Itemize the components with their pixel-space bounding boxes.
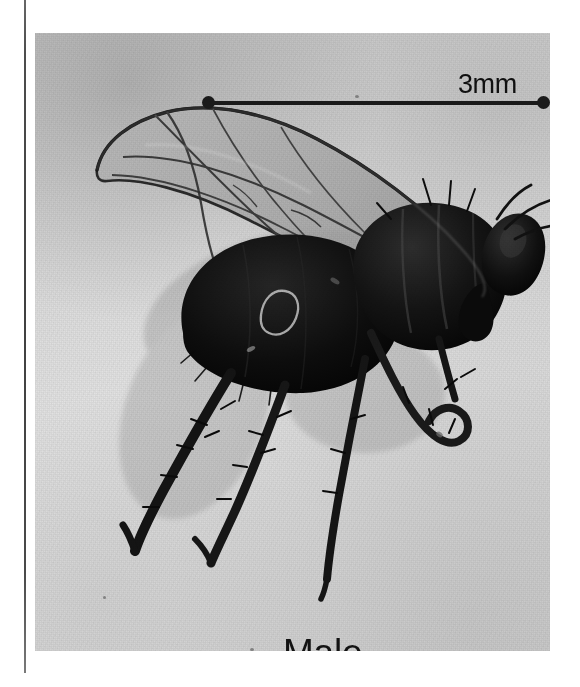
page-gutter-rule: [24, 0, 26, 673]
film-grain-overlay: [35, 33, 550, 651]
scale-bar-label: 3mm: [458, 69, 517, 100]
scale-bar-line: [209, 101, 543, 105]
dust-speck: [103, 596, 106, 599]
dust-speck: [250, 648, 254, 651]
dust-speck: [355, 95, 359, 98]
figure-panel: 3mm Male: [0, 0, 580, 687]
specimen-sex-label: Male: [283, 632, 362, 651]
specimen-photograph: 3mm Male: [35, 33, 550, 651]
scale-bar-right-endpoint: [537, 96, 550, 109]
scale-bar: [205, 99, 547, 106]
